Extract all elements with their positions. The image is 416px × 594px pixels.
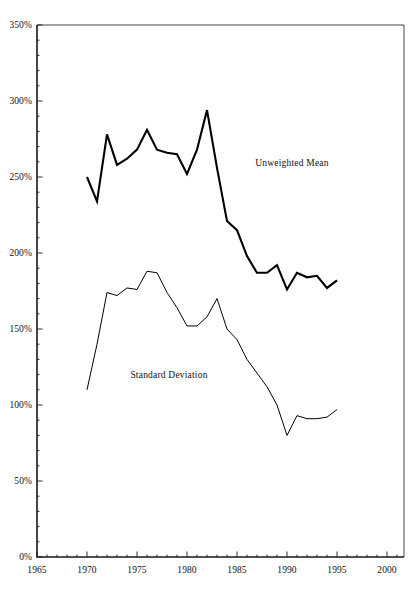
plot-frame <box>37 25 404 557</box>
x-tick-label: 2000 <box>377 565 397 575</box>
line-chart: 0%50%100%150%200%250%300%350% 1965197019… <box>0 0 416 594</box>
y-tick-label: 250% <box>9 172 32 182</box>
y-axis-ticks <box>37 25 43 557</box>
x-tick-label: 1965 <box>27 565 47 575</box>
y-tick-label: 300% <box>9 96 32 106</box>
x-tick-label: 1995 <box>327 565 347 575</box>
x-tick-label: 1975 <box>127 565 147 575</box>
x-tick-label: 1985 <box>227 565 247 575</box>
series-label-unweighted-mean: Unweighted Mean <box>255 158 328 168</box>
series-line <box>87 271 337 435</box>
y-tick-label: 350% <box>9 20 32 30</box>
chart-container: 0%50%100%150%200%250%300%350% 1965197019… <box>0 0 416 594</box>
y-axis-tick-labels: 0%50%100%150%200%250%300%350% <box>9 20 32 562</box>
y-tick-label: 200% <box>9 248 32 258</box>
series-annotations: Unweighted MeanStandard Deviation <box>130 158 328 379</box>
series-label-standard-deviation: Standard Deviation <box>130 370 207 380</box>
x-tick-label: 1990 <box>277 565 297 575</box>
series-line <box>87 110 337 289</box>
y-tick-label: 50% <box>14 476 32 486</box>
x-tick-label: 1980 <box>177 565 197 575</box>
y-tick-label: 0% <box>19 552 32 562</box>
axis-top-right <box>37 25 404 557</box>
x-axis-ticks <box>37 552 397 558</box>
y-tick-label: 150% <box>9 324 32 334</box>
x-axis-tick-labels: 19651970197519801985199019952000 <box>27 565 397 575</box>
axis-left-bottom <box>37 25 404 557</box>
y-tick-label: 100% <box>9 400 32 410</box>
x-tick-label: 1970 <box>77 565 97 575</box>
